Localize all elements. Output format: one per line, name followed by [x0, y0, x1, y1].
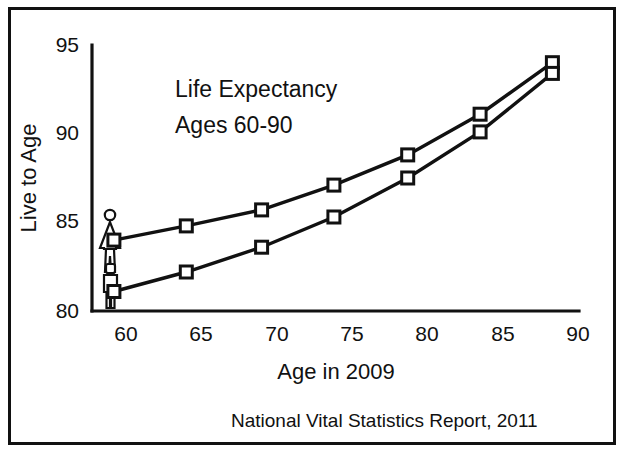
chart-title-line2: Ages 60-90 — [175, 112, 293, 138]
figure-container: 95 90 85 80 Live to Age 60 65 70 75 80 8… — [0, 0, 626, 461]
x-tick-label: 75 — [340, 322, 363, 345]
source-note: National Vital Statistics Report, 2011 — [231, 410, 538, 431]
x-tick-label: 90 — [566, 322, 589, 345]
y-tick-label: 90 — [56, 121, 79, 144]
chart-plot: 95 90 85 80 Live to Age 60 65 70 75 80 8… — [0, 0, 626, 461]
y-tick-label: 80 — [56, 299, 79, 322]
y-tick-label: 85 — [56, 209, 79, 232]
x-tick-label: 65 — [189, 322, 212, 345]
x-tick-label: 85 — [491, 322, 514, 345]
chart-title-line1: Life Expectancy — [175, 76, 338, 102]
x-tick-label: 80 — [415, 322, 438, 345]
x-tick-label: 60 — [114, 322, 137, 345]
y-axis-title: Live to Age — [16, 124, 41, 233]
x-tick-label: 70 — [265, 322, 288, 345]
x-axis-title: Age in 2009 — [277, 359, 394, 384]
y-tick-label: 95 — [56, 33, 79, 56]
